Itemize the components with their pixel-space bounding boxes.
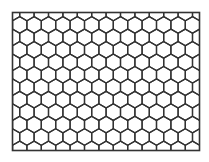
hexagon-cell: [70, 141, 84, 158]
hexagon-cell: [0, 0, 12, 8]
hexagon-cell: [164, 154, 178, 162]
hexagon-cell: [113, 141, 127, 158]
hexagon-cell: [128, 141, 142, 158]
hexagon-cell: [0, 91, 12, 108]
hexagon-cell: [27, 141, 41, 158]
hexagon-cell: [13, 141, 27, 158]
hexagon-cell: [49, 154, 63, 162]
hexagon-cell: [63, 154, 77, 162]
hexagon-cell: [0, 154, 5, 162]
hexagon-cell: [149, 154, 163, 162]
hexagon-cell: [200, 91, 209, 108]
hexagon-cell: [70, 0, 84, 8]
hexagon-cell: [0, 141, 12, 158]
hexagon-cell: [56, 0, 70, 8]
hexagon-cell: [0, 66, 12, 83]
hexagon-cell: [0, 54, 5, 71]
hexagon-cell: [85, 141, 99, 158]
hexagon-cell: [0, 29, 5, 46]
hexagon-cell: [171, 141, 185, 158]
hexagon-cell: [207, 54, 209, 71]
hexagon-cell: [77, 154, 91, 162]
hexagon-cell: [200, 66, 209, 83]
hexagon-cell: [157, 0, 171, 8]
hexagon-cell: [41, 141, 55, 158]
hexagon-cell: [142, 0, 156, 8]
hexagon-cell: [85, 0, 99, 8]
hexagon-cell: [200, 42, 209, 59]
hexagon-cell: [0, 104, 5, 121]
hexagon-grid-diagram: [0, 0, 209, 162]
hexagon-cell: [207, 104, 209, 121]
hexagon-cell: [128, 0, 142, 8]
hexagon-cell: [200, 0, 209, 8]
hexagon-cells: [0, 0, 209, 162]
hexagon-cell: [0, 79, 5, 96]
hexagon-cell: [0, 17, 12, 34]
hexagon-cell: [5, 154, 19, 162]
hexagon-cell: [207, 29, 209, 46]
hexagon-cell: [178, 154, 192, 162]
hexagon-cell: [56, 141, 70, 158]
hexagon-cell: [207, 129, 209, 146]
hexagon-cell: [20, 154, 34, 162]
hexagon-cell: [142, 141, 156, 158]
hexagon-cell: [171, 0, 185, 8]
hexagon-cell: [0, 129, 5, 146]
hexagon-cell: [207, 154, 209, 162]
hexagon-cell: [41, 0, 55, 8]
hexagon-cell: [185, 141, 199, 158]
hexagon-cell: [99, 0, 113, 8]
hexagon-cell: [0, 116, 12, 133]
hexagon-cell: [34, 154, 48, 162]
hexagon-cell: [27, 0, 41, 8]
hexagon-cell: [157, 141, 171, 158]
hexagon-cell: [200, 17, 209, 34]
hexagon-cell: [113, 0, 127, 8]
hexagon-cell: [185, 0, 199, 8]
hexagon-cell: [207, 79, 209, 96]
hexagon-cell: [200, 116, 209, 133]
hexagon-cell: [99, 141, 113, 158]
hexagon-cell: [121, 154, 135, 162]
hexagon-cell: [207, 4, 209, 21]
hexagon-cell: [0, 4, 5, 21]
hexagon-cell: [106, 154, 120, 162]
hexagon-cell: [0, 42, 12, 59]
hexagon-cell: [200, 141, 209, 158]
hexagon-cell: [92, 154, 106, 162]
hexagon-cell: [13, 0, 27, 8]
hexagon-cell: [135, 154, 149, 162]
hexagon-cell: [193, 154, 207, 162]
